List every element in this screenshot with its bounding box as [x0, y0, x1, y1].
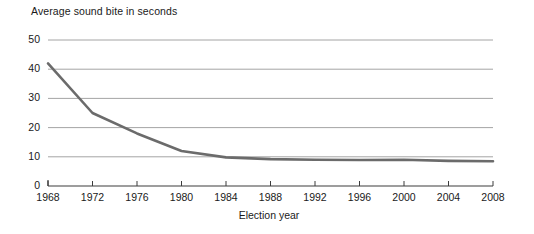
x-axis-tick-label: 1988: [249, 192, 293, 203]
x-axis-tick-label: 1984: [204, 192, 248, 203]
x-axis-tick-label: 1996: [338, 192, 382, 203]
x-axis-tick-label: 1976: [115, 192, 159, 203]
sound-bite-line-chart: Average sound bite in seconds 0102030405…: [0, 0, 534, 234]
y-axis-tick-label: 40: [18, 63, 40, 74]
y-axis-tick-label: 0: [18, 180, 40, 191]
x-axis-ticks: [48, 181, 493, 186]
x-axis-title: Election year: [0, 209, 534, 221]
x-axis-tick-label: 1968: [26, 192, 70, 203]
x-axis-tick-label: 2000: [382, 192, 426, 203]
y-axis-tick-label: 50: [18, 34, 40, 45]
x-axis-tick-label: 1980: [160, 192, 204, 203]
x-axis-title-label: Election year: [239, 209, 300, 221]
x-axis-tick-label: 2004: [427, 192, 471, 203]
gridlines: [48, 40, 493, 186]
y-axis-tick-label: 20: [18, 122, 40, 133]
x-axis-tick-label: 1992: [293, 192, 337, 203]
x-axis-tick-label: 2008: [471, 192, 515, 203]
data-line-series: [48, 63, 493, 161]
x-axis-tick-label: 1972: [71, 192, 115, 203]
y-axis-tick-label: 10: [18, 151, 40, 162]
y-axis-tick-label: 30: [18, 92, 40, 103]
